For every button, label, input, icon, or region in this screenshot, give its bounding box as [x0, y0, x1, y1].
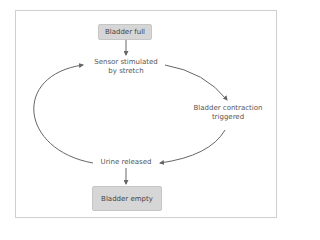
end-box-label: Bladder empty — [101, 195, 153, 203]
node-release-line1: Urine released — [92, 158, 160, 167]
arrow-sensor-to-contraction — [165, 65, 227, 100]
node-sensor-line1: Sensor stimulated — [86, 58, 166, 67]
arrow-contraction-to-release — [160, 130, 225, 163]
node-sensor-line2: by stretch — [86, 67, 166, 76]
node-contraction-line2: triggered — [182, 113, 274, 122]
node-urine-released: Urine released — [92, 158, 160, 167]
node-sensor-stimulated: Sensor stimulated by stretch — [86, 58, 166, 76]
start-box-label: Bladder full — [105, 28, 145, 36]
node-contraction-line1: Bladder contraction — [182, 104, 274, 113]
arrow-release-to-sensor — [34, 65, 93, 163]
start-box-bladder-full: Bladder full — [98, 24, 152, 40]
end-box-bladder-empty: Bladder empty — [92, 186, 162, 211]
node-bladder-contraction: Bladder contraction triggered — [182, 104, 274, 122]
